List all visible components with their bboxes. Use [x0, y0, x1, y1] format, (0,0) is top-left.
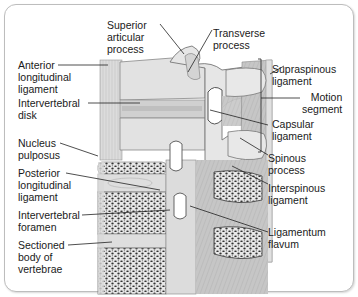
foramen-lower-shape	[170, 141, 182, 171]
label-nucleus-pulposus: Nucleus pulposus	[18, 137, 60, 161]
label-anterior-longitudinal-ligament: Anterior longitudinal ligament	[18, 59, 71, 95]
foramen-upper-shape	[208, 87, 222, 124]
label-intervertebral-disk: Intervertebral disk	[18, 97, 80, 121]
sectioned-body-2	[98, 248, 166, 294]
sectioned-body-top	[98, 162, 166, 174]
label-supraspinous-ligament: Supraspinous ligament	[272, 63, 336, 87]
label-spinous-process: Spinous process	[268, 152, 306, 176]
label-interspinous-ligament: Interspinous ligament	[268, 182, 325, 206]
label-ligamentum-flavum: Ligamentum flavum	[268, 226, 326, 250]
spinous-section-2	[214, 227, 262, 259]
label-motion-segment: Motion segment	[302, 91, 342, 115]
anterior-ligament-shape	[100, 60, 122, 160]
label-superior-articular-process: Superior articular process	[107, 19, 147, 55]
spinous-section-1	[214, 171, 262, 203]
sectioned-body-1	[98, 192, 166, 234]
label-transverse-process: Transverse process	[213, 27, 265, 51]
label-posterior-longitudinal-ligament: Posterior longitudinal ligament	[18, 167, 71, 203]
label-capsular-ligament: Capsular ligament	[272, 118, 314, 142]
label-sectioned-body-of-vertebrae: Sectioned body of vertebrae	[18, 239, 65, 275]
label-intervertebral-foramen: Intervertebral foramen	[18, 209, 80, 233]
